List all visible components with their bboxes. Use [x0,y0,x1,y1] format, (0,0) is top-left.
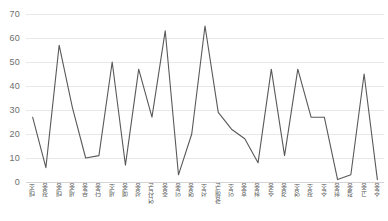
x-axis-tick-text: 인조 [228,183,235,197]
plot-area [26,14,384,182]
x-axis-tick-text: 효종 [241,183,248,197]
y-axis-tick-label: 40 [10,81,20,91]
x-axis-tick-text: 세조 [109,183,116,197]
x-axis-tick-label: 명종 [187,183,197,197]
x-axis-tick-text: 예종 [122,183,129,197]
x-axis-tick-label: 선조 [200,183,210,197]
y-axis-tick-label: 30 [10,105,20,115]
x-axis-tick-label: 인조 [227,183,237,197]
x-axis-tick-text: 경종 [281,183,288,197]
x-axis-tick-label: 정종 [41,183,51,197]
x-axis-tick-text: 헌종 [334,183,341,197]
x-axis-tick-label: 인종 [173,183,183,197]
x-axis-tick-label: 정조 [306,183,316,197]
y-axis-tick-label: 20 [10,129,20,139]
x-axis-tick-label: 세종 [67,183,77,197]
series-layer [26,14,384,182]
x-axis-tick-text: 명종 [188,183,195,197]
x-axis-tick-text: 세종 [69,183,76,197]
x-axis-tick-text: 순종 [374,183,381,197]
x-axis-tick-text: 광해군 [215,183,222,204]
x-axis-tick-label: 단종 [94,183,104,197]
x-axis-tick-label: 순종 [372,183,382,197]
y-axis-tick-label: 50 [10,57,20,67]
x-axis-tick-text: 정종 [42,183,49,197]
x-axis-tick-label: 경종 [280,183,290,197]
x-axis-tick-label: 문종 [81,183,91,197]
x-axis-tick-label: 태조 [28,183,38,197]
x-axis-tick-text: 고종 [361,183,368,197]
x-axis-tick-label: 고종 [359,183,369,197]
x-axis-tick-label: 광해군 [213,183,223,204]
series-svg [26,14,384,182]
y-axis-tick-label: 60 [10,33,20,43]
x-axis: 태조정종태종세종문종단종세조예종성종연산군중종인종명종선조광해군인조효종현종숙종… [26,183,384,221]
x-axis-tick-text: 문종 [82,183,89,197]
x-axis-tick-text: 태조 [29,183,36,197]
x-axis-tick-text: 선조 [201,183,208,197]
x-axis-tick-text: 순조 [321,183,328,197]
x-axis-tick-label: 순조 [319,183,329,197]
x-axis-tick-label: 중종 [160,183,170,197]
x-axis-tick-text: 연산군 [148,183,155,204]
line-chart: 706050403020100 태조정종태종세종문종단종세조예종성종연산군중종인… [0,0,388,221]
y-axis-tick-label: 0 [15,177,20,187]
x-axis-tick-label: 예종 [120,183,130,197]
x-axis-tick-label: 연산군 [147,183,157,204]
x-axis-tick-label: 효종 [240,183,250,197]
x-axis-tick-text: 태종 [56,183,63,197]
x-axis-tick-text: 현종 [254,183,261,197]
x-axis-tick-text: 인종 [175,183,182,197]
y-axis: 706050403020100 [0,0,24,182]
x-axis-tick-text: 영조 [294,183,301,197]
x-axis-tick-label: 태종 [54,183,64,197]
x-axis-tick-text: 철종 [347,183,354,197]
x-axis-tick-label: 성종 [134,183,144,197]
x-axis-tick-label: 세조 [107,183,117,197]
x-axis-tick-label: 헌종 [333,183,343,197]
x-axis-tick-text: 성종 [135,183,142,197]
x-axis-tick-text: 정조 [307,183,314,197]
x-axis-tick-text: 단종 [95,183,102,197]
x-axis-tick-text: 숙종 [268,183,275,197]
x-axis-tick-label: 철종 [346,183,356,197]
x-axis-tick-label: 영조 [293,183,303,197]
y-axis-tick-label: 70 [10,9,20,19]
y-axis-tick-label: 10 [10,153,20,163]
x-axis-tick-text: 중종 [162,183,169,197]
x-axis-tick-label: 숙종 [266,183,276,197]
series-line [33,26,378,180]
x-axis-tick-label: 현종 [253,183,263,197]
